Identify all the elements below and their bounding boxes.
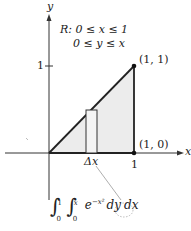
inner-lower-limit: 0 <box>73 213 77 225</box>
x-axis-arrow-icon <box>177 151 184 156</box>
differential-dy: dy <box>107 198 121 212</box>
point-1-1 <box>132 64 137 69</box>
callout-line <box>96 166 121 200</box>
inner-upper-limit: x <box>74 197 78 209</box>
y-tick-label: 1 <box>37 60 44 72</box>
double-integral: ∫10∫x0e−x²dydx <box>50 196 139 212</box>
integrand-exponent: −x² <box>92 198 105 206</box>
x-axis-label: x <box>185 146 191 158</box>
y-axis-label: y <box>47 1 53 13</box>
x-tick-label: 1 <box>131 159 138 171</box>
outer-upper-limit: 1 <box>57 197 61 209</box>
region-definition: R: 0 ≤ x ≤ 1 0 ≤ y ≤ x <box>60 23 128 51</box>
region-x-bounds: 0 ≤ x ≤ 1 <box>76 23 129 36</box>
stray-mark <box>26 138 28 140</box>
differential-dx: dx <box>124 198 138 212</box>
region-name: R: <box>60 23 72 36</box>
point-label-1-1: (1, 1) <box>139 54 169 66</box>
integrand-base: e <box>85 198 92 212</box>
y-axis-arrow-icon <box>47 14 52 21</box>
point-label-1-0: (1, 0) <box>139 139 169 151</box>
point-1-0 <box>132 151 137 156</box>
strip-rectangle <box>86 110 97 153</box>
outer-lower-limit: 0 <box>56 213 60 225</box>
region-y-bounds: 0 ≤ y ≤ x <box>73 37 125 50</box>
strip-label-delta-x: Δx <box>84 156 98 168</box>
